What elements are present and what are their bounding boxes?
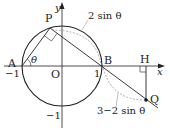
leader-PB	[82, 20, 88, 30]
point-Q	[144, 98, 148, 102]
label-B: B	[104, 55, 112, 66]
label-O: O	[51, 69, 60, 80]
label-P: P	[45, 13, 52, 24]
label-Q: Q	[150, 94, 159, 105]
label-arc-BQ: 3−2 sin θ	[97, 106, 145, 116]
label-H: H	[140, 54, 150, 65]
label-neg1-x: −1	[5, 69, 20, 79]
label-neg1-y: −1	[46, 111, 61, 121]
label-pos1-x: 1	[94, 69, 100, 79]
dashed-arc-BQ	[103, 68, 144, 100]
label-y-axis: y	[55, 3, 61, 13]
right-angle-mark-H	[140, 66, 146, 72]
line-PBQ	[50, 28, 158, 108]
unit-circle-diagram: P A B O H Q x y θ −1 1 −1 2 sin θ 3−2 si…	[0, 0, 170, 130]
label-x-axis: x	[157, 67, 163, 77]
right-angle-mark-P	[44, 34, 57, 42]
label-arc-PB: 2 sin θ	[88, 11, 122, 21]
label-theta: θ	[31, 55, 37, 65]
